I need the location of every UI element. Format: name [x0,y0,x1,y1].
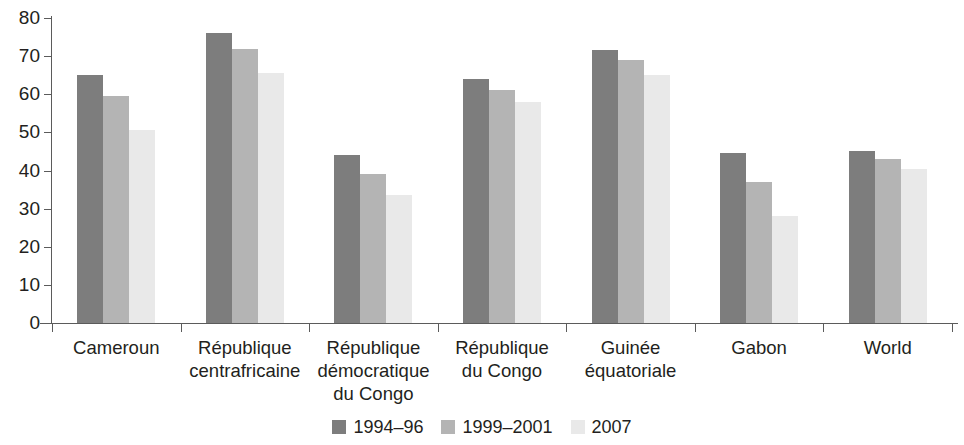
y-axis-tick [44,94,52,95]
x-axis-category-label-line: équatoriale [566,359,695,382]
y-axis-tick [44,209,52,210]
x-axis-tick [823,324,824,332]
x-axis-tick [438,324,439,332]
bar [746,182,772,323]
y-axis-tick-label: 50 [0,122,40,141]
x-axis-tick [181,324,182,332]
y-axis-tick [44,247,52,248]
x-axis-category-label-line: République [309,336,438,359]
y-axis-tick-label: 10 [0,275,40,294]
bar [463,79,489,323]
bar [772,216,798,323]
legend-swatch-icon [332,420,346,434]
x-axis-line [40,323,958,324]
bar [77,75,103,323]
x-axis-tick [695,324,696,332]
x-axis-category-label-line: République [438,336,567,359]
x-axis-category-label-line: démocratique [309,359,438,382]
y-axis-tick [44,56,52,57]
bar-group [592,18,670,323]
bar-group [463,18,541,323]
bar [258,73,284,323]
x-axis-category-label: Républiquecentrafricaine [181,336,310,382]
bar [360,174,386,323]
bar [334,155,360,323]
bar [103,96,129,323]
legend-label: 1994–96 [353,418,423,436]
x-axis-category-label-line: centrafricaine [181,359,310,382]
x-axis-category-label: Républiquedémocratiquedu Congo [309,336,438,405]
bar [849,151,875,323]
bar [901,169,927,323]
y-axis-labels: 01020304050607080 [0,0,40,445]
x-axis-category-label: Cameroun [52,336,181,359]
legend-item[interactable]: 1994–96 [332,418,423,436]
x-axis-tick [52,324,53,332]
y-axis-tick-label: 20 [0,237,40,256]
legend-swatch-icon [441,420,455,434]
bar [129,130,155,323]
legend-swatch-icon [571,420,585,434]
bar-group [849,18,927,323]
x-axis-category-label: Gabon [695,336,824,359]
x-axis-category-label: Guinéeéquatoriale [566,336,695,382]
bar [232,49,258,324]
y-axis-tick [44,285,52,286]
legend-item[interactable]: 2007 [571,418,632,436]
bar [720,153,746,323]
x-axis-category-label-line: du Congo [438,359,567,382]
y-axis-tick [44,132,52,133]
y-axis-tick-label: 0 [0,313,40,332]
plot-area [52,18,952,323]
x-axis-category-label-line: World [823,336,952,359]
y-axis-tick [44,171,52,172]
x-axis-tick [566,324,567,332]
y-axis-tick-label: 40 [0,161,40,180]
bar [515,102,541,323]
y-axis-tick [44,18,52,19]
x-axis-category-label-line: Gabon [695,336,824,359]
x-axis-category-label-line: Cameroun [52,336,181,359]
y-axis-tick-label: 30 [0,199,40,218]
chart-legend: 1994–961999–20012007 [0,418,964,436]
y-axis-tick-label: 80 [0,8,40,27]
bar [386,195,412,323]
legend-item[interactable]: 1999–2001 [441,418,552,436]
x-axis-tick [952,324,953,332]
bar [875,159,901,323]
bar [644,75,670,323]
legend-label: 1999–2001 [462,418,552,436]
bar [618,60,644,323]
x-axis-category-label-line: du Congo [309,382,438,405]
x-axis-category-label: World [823,336,952,359]
bar [206,33,232,323]
y-axis-tick-label: 70 [0,46,40,65]
x-axis-category-label-line: Guinée [566,336,695,359]
x-axis-category-label-line: République [181,336,310,359]
y-axis-tick-label: 60 [0,84,40,103]
x-axis-tick [309,324,310,332]
bar [489,90,515,323]
bar [592,50,618,323]
bar-group [720,18,798,323]
legend-label: 2007 [592,418,632,436]
bar-group [206,18,284,323]
bar-group [334,18,412,323]
bar-group [77,18,155,323]
bar-chart: 01020304050607080 CamerounRépubliquecent… [0,0,964,445]
x-axis-category-label: Républiquedu Congo [438,336,567,382]
